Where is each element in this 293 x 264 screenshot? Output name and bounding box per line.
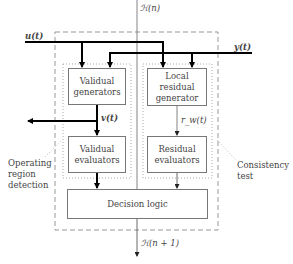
output-signal-label: y(t) [234, 42, 251, 53]
operating-region-annotation: Operating region detection [8, 158, 56, 191]
local-residual-generator-block: Local residual generator [147, 68, 207, 106]
validual-evaluators-block: Validual evaluators [68, 136, 126, 173]
residual-signal-label: r_w(t) [181, 115, 207, 126]
validual-signal-label: v(t) [101, 113, 118, 124]
decision-logic-block: Decision logic [67, 189, 208, 219]
consistency-test-annotation: Consistency test [237, 160, 289, 182]
residual-evaluators-block: Residual evaluators [147, 136, 207, 173]
hypothesis-output-label: ℋ(n + 1) [141, 238, 179, 249]
validual-generators-block: Validual generators [68, 68, 126, 105]
hypothesis-input-label: ℋ(n) [140, 3, 160, 14]
input-signal-label: u(t) [25, 31, 43, 42]
diagram-lines [0, 0, 293, 264]
